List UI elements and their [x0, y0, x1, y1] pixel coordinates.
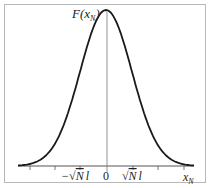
tick-label-zero: 0 [103, 169, 109, 183]
x-axis-label: xN [182, 170, 194, 186]
gaussian-curve [18, 10, 194, 166]
tick-label-pos-sqrtNl: √Nl [122, 169, 143, 183]
y-axis-label: F(xN) [71, 6, 100, 23]
gaussian-chart: F(xN) xN −√Nl 0 √Nl [0, 0, 212, 188]
tick-label-neg-sqrtNl: −√Nl [61, 169, 90, 183]
